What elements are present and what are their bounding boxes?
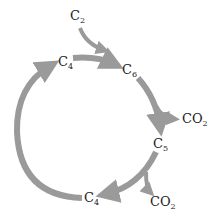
arrow-c2-to-c6 bbox=[80, 28, 104, 50]
label-c6: C6 bbox=[122, 63, 137, 79]
arrow-to-co2-bottom bbox=[146, 172, 150, 192]
label-c5: C5 bbox=[153, 137, 168, 153]
cycle-arrows bbox=[0, 0, 212, 217]
label-c4-top: C4 bbox=[58, 55, 73, 71]
label-co2-bottom: CO2 bbox=[150, 195, 176, 211]
label-c2: C2 bbox=[70, 9, 85, 25]
label-c4-bottom: C4 bbox=[84, 191, 99, 207]
arrow-c4-cycle bbox=[17, 66, 82, 198]
label-co2-right: CO2 bbox=[182, 112, 208, 128]
arrow-c4-to-c6 bbox=[73, 58, 114, 64]
arrow-c6-to-c5 bbox=[138, 78, 160, 126]
